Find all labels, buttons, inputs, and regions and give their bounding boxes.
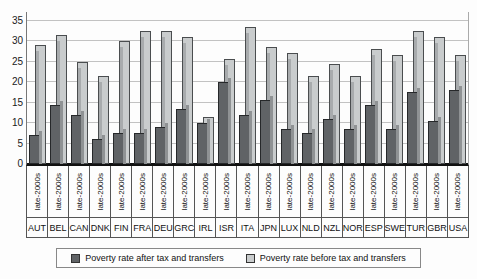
country-cell-NZL: NZL (322, 218, 343, 238)
bar-group-AUT (27, 12, 48, 164)
country-cell-ITA: ITA (237, 218, 258, 238)
country-cell-NLD: NLD (301, 218, 322, 238)
y-tick-label-15: 15 (12, 96, 27, 107)
bar-after-USA (449, 90, 460, 164)
country-label-SWE: SWE (385, 223, 405, 233)
period-label: late-2000s (33, 173, 42, 210)
legend-item-after: Poverty rate after tax and transfers (71, 253, 224, 263)
country-label-FIN: FIN (114, 223, 129, 233)
country-label-FRA: FRA (133, 223, 151, 233)
country-label-GRC: GRC (174, 223, 194, 233)
country-cell-AUT: AUT (26, 218, 48, 238)
period-label: late-2000s (54, 173, 63, 210)
country-label-BEL: BEL (50, 223, 67, 233)
bar-after-CAN (71, 115, 82, 164)
period-label: late-2000s (348, 173, 357, 210)
bar-after-NLD (302, 133, 313, 164)
bar-after-DNK (92, 139, 103, 164)
before-tax-swatch-icon (246, 254, 255, 263)
period-cell-DNK: late-2000s (90, 166, 111, 218)
period-label: late-2000s (180, 173, 189, 210)
period-cell-USA: late-2000s (448, 166, 469, 218)
period-label: late-2000s (432, 173, 441, 210)
bar-group-TUR (405, 12, 426, 164)
period-cell-DEU: late-2000s (153, 166, 174, 218)
period-cell-GRC: late-2000s (174, 166, 195, 218)
bar-group-ESP (363, 12, 384, 164)
legend-label-before: Poverty rate before tax and transfers (260, 253, 406, 263)
country-cell-TUR: TUR (406, 218, 427, 238)
plot-area: 05101520253035 (26, 12, 469, 166)
y-tick-label-35: 35 (12, 14, 27, 25)
bar-group-SWE (384, 12, 405, 164)
bar-group-LUX (279, 12, 300, 164)
y-tick-label-30: 30 (12, 35, 27, 46)
period-cell-ISR: late-2000s (216, 166, 237, 218)
country-cell-GBR: GBR (427, 218, 448, 238)
bar-after-ISR (218, 82, 229, 164)
country-cell-GRC: GRC (174, 218, 195, 238)
bar-after-JPN (260, 100, 271, 164)
bar-group-DEU (153, 12, 174, 164)
country-cell-NOR: NOR (343, 218, 364, 238)
legend: Poverty rate after tax and transfers Pov… (0, 248, 477, 268)
bar-group-GRC (174, 12, 195, 164)
bars-layer (27, 12, 468, 164)
period-cell-FRA: late-2000s (132, 166, 153, 218)
y-tick-label-10: 10 (12, 117, 27, 128)
period-label: late-2000s (411, 173, 420, 210)
period-cell-NOR: late-2000s (343, 166, 364, 218)
y-tick-label-25: 25 (12, 55, 27, 66)
country-label-DEU: DEU (154, 223, 173, 233)
country-label-AUT: AUT (28, 223, 46, 233)
after-tax-swatch-icon (71, 254, 80, 263)
period-cell-JPN: late-2000s (259, 166, 280, 218)
bar-group-FRA (132, 12, 153, 164)
bar-after-AUT (29, 135, 40, 164)
period-cell-GBR: late-2000s (427, 166, 448, 218)
country-label-DNK: DNK (91, 223, 110, 233)
bar-group-ISR (216, 12, 237, 164)
country-label-JPN: JPN (260, 223, 277, 233)
bar-group-BEL (48, 12, 69, 164)
bar-after-LUX (281, 129, 292, 164)
bar-group-ITA (237, 12, 258, 164)
country-label-ISR: ISR (219, 223, 234, 233)
bar-group-IRL (195, 12, 216, 164)
period-label: late-2000s (327, 173, 336, 210)
period-label: late-2000s (453, 173, 462, 210)
y-tick-label-20: 20 (12, 76, 27, 87)
country-cell-ESP: ESP (364, 218, 385, 238)
period-cell-NZL: late-2000s (322, 166, 343, 218)
country-cell-FIN: FIN (111, 218, 132, 238)
bar-after-FIN (113, 133, 124, 164)
country-label-ITA: ITA (241, 223, 254, 233)
period-label: late-2000s (390, 173, 399, 210)
country-cell-USA: USA (448, 218, 469, 238)
country-label-NLD: NLD (302, 223, 320, 233)
period-cell-SWE: late-2000s (385, 166, 406, 218)
country-cell-JPN: JPN (259, 218, 280, 238)
country-label-CAN: CAN (70, 223, 89, 233)
period-cell-LUX: late-2000s (280, 166, 301, 218)
y-tick-label-5: 5 (17, 137, 27, 148)
period-label: late-2000s (369, 173, 378, 210)
period-cell-ESP: late-2000s (364, 166, 385, 218)
period-cell-ITA: late-2000s (237, 166, 258, 218)
country-cell-FRA: FRA (132, 218, 153, 238)
period-label: late-2000s (201, 173, 210, 210)
bar-group-NZL (321, 12, 342, 164)
period-cell-BEL: late-2000s (48, 166, 69, 218)
period-label: late-2000s (243, 173, 252, 210)
bar-after-ESP (365, 105, 376, 164)
period-cell-TUR: late-2000s (406, 166, 427, 218)
bar-after-TUR (407, 92, 418, 164)
bar-group-NLD (300, 12, 321, 164)
bar-after-GBR (428, 121, 439, 164)
country-label-ESP: ESP (365, 223, 383, 233)
country-label-TUR: TUR (407, 223, 426, 233)
bar-group-CAN (69, 12, 90, 164)
bar-group-DNK (90, 12, 111, 164)
bar-after-GRC (176, 109, 187, 164)
legend-label-after: Poverty rate after tax and transfers (85, 253, 224, 263)
